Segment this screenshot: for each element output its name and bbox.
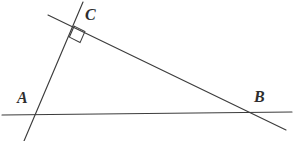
vertex-label-c: C xyxy=(85,7,96,23)
geometry-diagram: A B C xyxy=(0,0,296,141)
vertex-label-b: B xyxy=(254,89,265,105)
vertex-label-a: A xyxy=(17,90,28,106)
diagram-canvas xyxy=(0,0,296,141)
line-AC xyxy=(24,2,83,141)
